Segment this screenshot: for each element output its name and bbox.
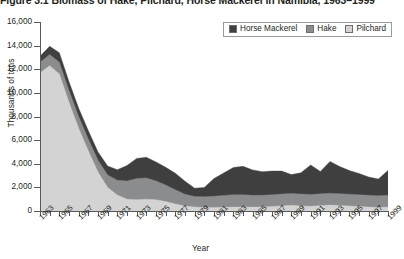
y-axis-line xyxy=(40,22,41,212)
legend-label: Horse Mackerel xyxy=(240,25,297,33)
legend-swatch-icon xyxy=(306,25,314,33)
y-axis-tick-label: 16,000 xyxy=(2,18,32,26)
legend-swatch-icon xyxy=(345,25,353,33)
legend-swatch-icon xyxy=(229,25,237,33)
y-axis-labels: 16,00014,00012,00010,0008,0006,0004,0002… xyxy=(0,0,32,259)
legend-item[interactable]: Pilchard xyxy=(345,25,386,33)
legend-item[interactable]: Horse Mackerel xyxy=(229,25,297,33)
plot-area xyxy=(40,22,388,211)
y-axis-tick xyxy=(34,164,40,165)
x-axis-tick-label: 1999 xyxy=(386,204,404,222)
figure-title: Figure 3.1 Biomass of Hake, Pilchard, Ho… xyxy=(0,0,401,8)
y-axis-tick xyxy=(34,117,40,118)
y-axis-tick xyxy=(34,187,40,188)
y-axis-tick xyxy=(34,22,40,23)
stacked-area-chart xyxy=(40,22,388,211)
y-axis-tick xyxy=(34,46,40,47)
y-axis-title: Thousands of tons xyxy=(6,28,16,158)
y-axis-tick-label: 2,000 xyxy=(2,183,32,191)
legend-label: Hake xyxy=(317,25,336,33)
area-series-group xyxy=(40,46,388,211)
y-axis-tick-label: 0 xyxy=(2,207,32,215)
x-axis-title: Year xyxy=(0,243,401,253)
chart-legend: Horse MackerelHakePilchard xyxy=(223,22,392,37)
y-axis-tick xyxy=(34,93,40,94)
legend-item[interactable]: Hake xyxy=(306,25,336,33)
legend-label: Pilchard xyxy=(356,25,386,33)
y-axis-tick xyxy=(34,140,40,141)
y-axis-tick xyxy=(34,69,40,70)
y-axis-tick-label: 4,000 xyxy=(2,160,32,168)
